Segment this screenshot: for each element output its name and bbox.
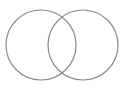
venn-circle-left [6,10,76,80]
venn-diagram [0,0,122,86]
venn-circle-right [48,10,118,80]
